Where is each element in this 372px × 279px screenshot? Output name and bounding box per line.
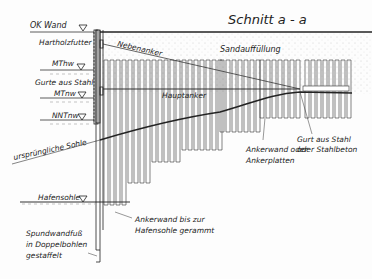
section-title: Schnitt a - a <box>228 12 307 27</box>
leader-line <box>300 92 312 134</box>
section-drawing: Schnitt a - a OK Wand Hartholzfutter MTh… <box>0 0 372 279</box>
label-hartholzfutter: Hartholzfutter <box>39 38 93 47</box>
label-gurte-stahl: Gurte aus Stahl <box>35 78 94 87</box>
leader-line <box>88 253 97 256</box>
label-hauptanker: Hauptanker <box>162 91 207 100</box>
label-ankerwand-2: Ankerplatten <box>245 156 295 165</box>
leader-line <box>263 118 265 140</box>
triangle-icon <box>77 64 85 70</box>
label-ankerwand-bis-2: Hafensohle gerammt <box>135 226 215 235</box>
label-ankerwand-bis-1: Ankerwand bis zur <box>134 215 205 224</box>
triangle-icon <box>78 114 86 120</box>
label-gurt-1: Gurt aus Stahl <box>297 135 352 144</box>
label-gurt-2: oder Stahlbeton <box>297 145 357 154</box>
label-spund-2: in Doppelbohlen <box>26 240 88 249</box>
level-label-mthw: MThw <box>52 59 75 68</box>
level-label-mtnw: MTnw <box>54 89 77 98</box>
leader-line <box>115 212 132 218</box>
drawing-canvas: Schnitt a - a OK Wand Hartholzfutter MTh… <box>0 0 372 279</box>
label-sandauffuellung: Sandauffüllung <box>220 45 281 54</box>
waler-beam <box>303 86 349 91</box>
triangle-icon <box>78 92 86 98</box>
level-label-hafensohle: Hafensohle <box>38 193 81 202</box>
triangle-icon <box>79 25 87 31</box>
label-spund-3: gestaffelt <box>26 251 63 260</box>
label-ursprungliche-sohle: ursprüngliche Sohle <box>13 138 88 162</box>
level-label-ok-wand: OK Wand <box>30 21 68 30</box>
label-spund-1: Spundwandfuß <box>26 229 82 238</box>
level-label-nntnw: NNTnw <box>52 111 80 120</box>
